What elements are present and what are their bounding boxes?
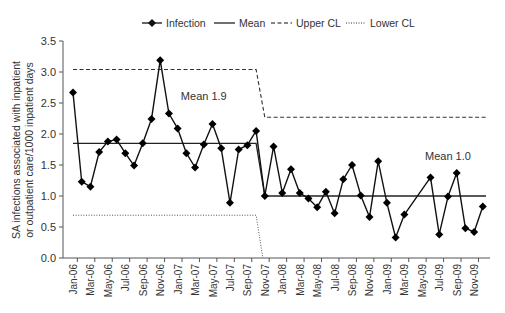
diamond-marker-icon bbox=[139, 139, 147, 147]
y-axis-title-line-1: SA infections associated with inpatient bbox=[10, 61, 22, 239]
diamond-marker-icon bbox=[217, 144, 225, 152]
x-tick-label: Jul-07 bbox=[225, 264, 236, 292]
y-tick: 0.0 bbox=[41, 252, 56, 264]
diamond-marker-icon bbox=[287, 165, 295, 173]
diamond-marker-icon bbox=[374, 157, 382, 165]
legend-item-mean: Mean bbox=[214, 17, 265, 29]
annotations: Mean 1.9Mean 1.0 bbox=[181, 90, 471, 162]
x-tick-label: Nov-07 bbox=[260, 264, 271, 297]
diamond-marker-icon bbox=[209, 120, 217, 128]
diamond-marker-icon bbox=[339, 175, 347, 183]
spc-chart: Infection Mean Upper CL Lower CL SA infe… bbox=[0, 0, 505, 313]
diamond-marker-icon bbox=[252, 127, 260, 135]
y-tick-label: 3.5 bbox=[41, 35, 56, 47]
y-tick: 3.5 bbox=[41, 35, 56, 47]
x-tick-label: Mar-07 bbox=[190, 264, 201, 296]
y-tick-label: 1.0 bbox=[41, 190, 56, 202]
diamond-marker-icon bbox=[243, 141, 251, 149]
diamond-marker-icon bbox=[191, 163, 199, 171]
x-tick-label: Mar-09 bbox=[399, 264, 410, 296]
x-tick-label: Jan-07 bbox=[173, 264, 184, 295]
y-tick-label: 2.5 bbox=[41, 97, 56, 109]
y-tick-label: 0.0 bbox=[41, 252, 56, 264]
y-tick: 1.0 bbox=[41, 190, 56, 202]
y-axis-title: SA infections associated with inpatient … bbox=[10, 61, 35, 239]
diamond-marker-icon bbox=[147, 115, 155, 123]
diamond-marker-icon bbox=[479, 203, 487, 211]
diamond-marker-icon bbox=[156, 56, 164, 64]
x-tick-label: Jul-08 bbox=[330, 264, 341, 292]
diamond-marker-icon bbox=[453, 169, 461, 177]
y-tick: 3.0 bbox=[41, 66, 56, 78]
legend-item-upper-cl: Upper CL bbox=[271, 17, 341, 29]
x-tick-label: May-06 bbox=[103, 264, 114, 298]
diamond-marker-icon bbox=[461, 224, 469, 232]
diamond-marker-icon bbox=[165, 110, 173, 118]
x-tick-label: Sep-08 bbox=[347, 264, 358, 297]
x-tick-label: Nov-06 bbox=[155, 264, 166, 297]
y-tick: 0.5 bbox=[41, 221, 56, 233]
diamond-marker-icon bbox=[270, 142, 278, 150]
diamond-marker-icon bbox=[69, 88, 77, 96]
legend-label-infection: Infection bbox=[166, 17, 206, 29]
lower-cl-line bbox=[73, 215, 263, 258]
x-tick-label: Jan-09 bbox=[382, 264, 393, 295]
diamond-marker-icon bbox=[86, 183, 94, 191]
legend-label-mean: Mean bbox=[239, 17, 265, 29]
diamond-marker-icon bbox=[182, 149, 190, 157]
x-tick-label: Jul-09 bbox=[434, 264, 445, 292]
upper-cl-line bbox=[73, 70, 486, 118]
y-tick: 2.5 bbox=[41, 97, 56, 109]
x-tick-label: Nov-08 bbox=[364, 264, 375, 297]
diamond-marker-icon bbox=[174, 124, 182, 132]
diamond-marker-icon bbox=[200, 141, 208, 149]
y-tick-label: 3.0 bbox=[41, 66, 56, 78]
mean-annotation: Mean 1.9 bbox=[181, 90, 227, 102]
legend-label-upper-cl: Upper CL bbox=[296, 17, 341, 29]
x-tick-label: May-09 bbox=[417, 264, 428, 298]
legend: Infection Mean Upper CL Lower CL bbox=[142, 17, 415, 29]
diamond-marker-icon bbox=[113, 136, 121, 144]
infection-series bbox=[69, 56, 487, 241]
diamond-marker-icon bbox=[226, 199, 234, 207]
diamond-marker-icon bbox=[357, 191, 365, 199]
x-tick-label: Nov-09 bbox=[469, 264, 480, 297]
x-axis: Jan-06Mar-06May-06Jul-06Sep-06Nov-06Jan-… bbox=[63, 258, 490, 297]
diamond-marker-icon bbox=[365, 213, 373, 221]
y-axis: 0.00.51.01.52.02.53.03.5 bbox=[41, 35, 63, 264]
x-tick-label: Jan-08 bbox=[277, 264, 288, 295]
diamond-marker-icon bbox=[392, 234, 400, 242]
diamond-marker-icon bbox=[331, 209, 339, 217]
legend-item-lower-cl: Lower CL bbox=[346, 17, 415, 29]
y-tick: 2.0 bbox=[41, 128, 56, 140]
x-tick-label: Jul-06 bbox=[120, 264, 131, 292]
diamond-marker-icon bbox=[348, 161, 356, 169]
y-tick-label: 1.5 bbox=[41, 159, 56, 171]
legend-item-infection: Infection bbox=[142, 17, 206, 29]
y-tick-label: 2.0 bbox=[41, 128, 56, 140]
x-tick-label: May-07 bbox=[208, 264, 219, 298]
legend-label-lower-cl: Lower CL bbox=[370, 17, 415, 29]
diamond-marker-icon bbox=[78, 178, 86, 186]
infection-line bbox=[73, 60, 483, 237]
diamond-marker-icon bbox=[444, 193, 452, 201]
y-tick-label: 0.5 bbox=[41, 221, 56, 233]
x-tick-label: Jan-06 bbox=[68, 264, 79, 295]
diamond-marker-icon bbox=[235, 146, 243, 154]
y-tick: 1.5 bbox=[41, 159, 56, 171]
x-tick-label: Sep-06 bbox=[138, 264, 149, 297]
diamond-marker-icon bbox=[435, 230, 443, 238]
x-tick-label: Sep-07 bbox=[242, 264, 253, 297]
diamond-marker-icon bbox=[261, 192, 269, 200]
x-tick-label: Mar-08 bbox=[295, 264, 306, 296]
x-tick-label: Mar-06 bbox=[85, 264, 96, 296]
diamond-marker-icon bbox=[148, 19, 156, 27]
x-tick-label: Sep-09 bbox=[452, 264, 463, 297]
x-tick-label: May-08 bbox=[312, 264, 323, 298]
mean-annotation: Mean 1.0 bbox=[425, 150, 471, 162]
y-axis-title-line-2: or outpatient care/1000 inpatient days bbox=[23, 62, 35, 238]
diamond-marker-icon bbox=[383, 199, 391, 207]
diamond-marker-icon bbox=[322, 188, 330, 196]
diamond-marker-icon bbox=[470, 228, 478, 236]
